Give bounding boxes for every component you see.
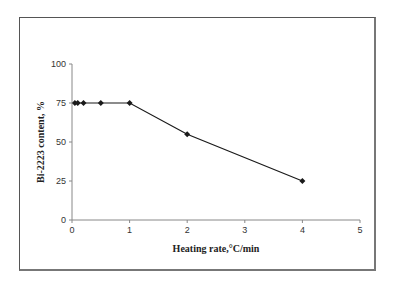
series-line bbox=[75, 103, 303, 181]
y-tick-label: 0 bbox=[61, 215, 66, 225]
diamond-marker bbox=[127, 100, 133, 106]
diamond-marker bbox=[184, 131, 190, 137]
y-axis-title: Bi-2223 content, % bbox=[35, 101, 46, 183]
x-tick-label: 0 bbox=[69, 225, 74, 235]
y-tick-label: 100 bbox=[51, 59, 66, 69]
x-tick-label: 2 bbox=[185, 225, 190, 235]
x-tick-label: 4 bbox=[300, 225, 305, 235]
x-tick-label: 1 bbox=[127, 225, 132, 235]
chart: 0123450255075100 Heating rate,°C/min Bi-… bbox=[0, 0, 394, 287]
x-tick-label: 5 bbox=[357, 225, 362, 235]
x-axis-title: Heating rate,°C/min bbox=[173, 243, 260, 254]
x-tick-label: 3 bbox=[242, 225, 247, 235]
y-tick-label: 50 bbox=[56, 137, 66, 147]
y-tick-label: 75 bbox=[56, 98, 66, 108]
data-series bbox=[72, 100, 306, 184]
diamond-marker bbox=[299, 178, 305, 184]
axes: 0123450255075100 bbox=[51, 59, 363, 235]
diamond-marker bbox=[98, 100, 104, 106]
y-tick-label: 25 bbox=[56, 176, 66, 186]
diamond-marker bbox=[81, 100, 87, 106]
